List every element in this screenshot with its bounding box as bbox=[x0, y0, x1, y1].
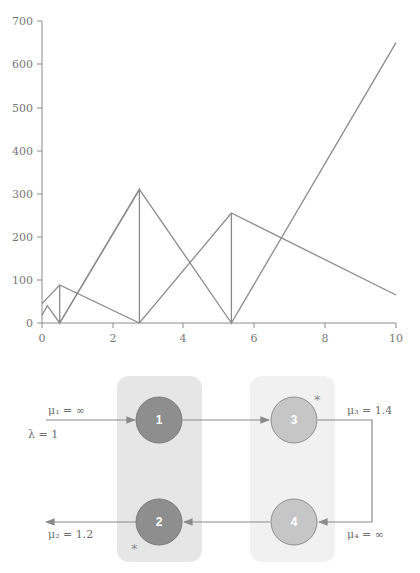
lambda-label: λ = 1 bbox=[28, 428, 58, 441]
y-tick-label: 200 bbox=[12, 231, 33, 244]
x-tick-label: 8 bbox=[322, 332, 329, 345]
star-marker-node-3: * bbox=[314, 392, 321, 407]
y-tick-label: 500 bbox=[12, 102, 33, 115]
x-tick-label: 2 bbox=[110, 332, 117, 345]
y-tick-label: 300 bbox=[12, 188, 33, 201]
queue-network-diagram: 1 2 3 4 * * μ₁ = ∞ λ = 1 μ₃ = 1.4 μ₄ = ∞… bbox=[0, 360, 420, 573]
y-tick-label: 100 bbox=[12, 274, 33, 287]
x-tick-label: 4 bbox=[180, 332, 187, 345]
node-1: 1 bbox=[136, 397, 182, 443]
star-marker-node-2: * bbox=[131, 541, 138, 556]
svg-text:1: 1 bbox=[156, 413, 163, 427]
y-tick-label: 400 bbox=[12, 145, 33, 158]
node-4: 4 bbox=[271, 499, 317, 545]
series-line-a bbox=[42, 213, 396, 323]
y-tick-label: 0 bbox=[26, 317, 33, 330]
series-zigzag-small bbox=[42, 306, 60, 323]
x-tick-label: 10 bbox=[389, 332, 403, 345]
y-tick-label: 600 bbox=[12, 58, 33, 71]
y-tick-label: 700 bbox=[12, 15, 33, 28]
node-3: 3 bbox=[271, 397, 317, 443]
x-tick-label: 6 bbox=[251, 332, 258, 345]
series-layer bbox=[42, 43, 396, 323]
svg-text:2: 2 bbox=[156, 515, 163, 529]
mu4-label: μ₄ = ∞ bbox=[347, 528, 384, 541]
series-line-c bbox=[139, 189, 231, 323]
mu1-label: μ₁ = ∞ bbox=[48, 404, 85, 417]
mu2-label: μ₂ = 1.2 bbox=[48, 528, 93, 541]
svg-text:4: 4 bbox=[291, 515, 298, 529]
series-line-d bbox=[60, 189, 140, 323]
line-chart: 0 100 200 300 400 500 600 700 0 2 4 6 8 … bbox=[0, 0, 420, 360]
x-ticks: 0 2 4 6 8 10 bbox=[39, 323, 404, 345]
x-tick-label: 0 bbox=[39, 332, 46, 345]
svg-text:3: 3 bbox=[291, 413, 298, 427]
series-line-steep bbox=[231, 43, 396, 323]
mu3-label: μ₃ = 1.4 bbox=[347, 404, 392, 417]
y-ticks: 0 100 200 300 400 500 600 700 bbox=[12, 15, 42, 330]
node-2: 2 bbox=[136, 499, 182, 545]
